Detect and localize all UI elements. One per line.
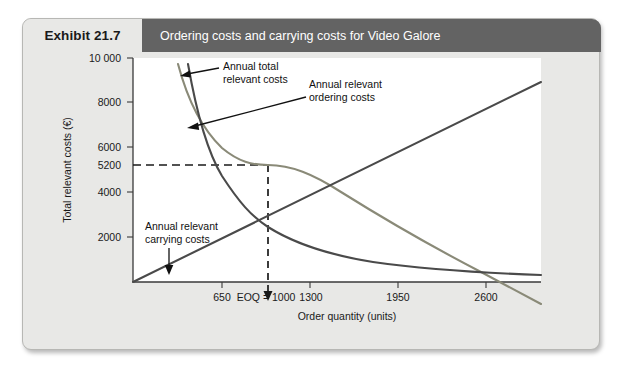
annotation-total-line-2: relevant costs: [223, 73, 288, 85]
y-tick-label-6000: 6000: [98, 141, 122, 153]
exhibit-number-label: Exhibit 21.7: [44, 28, 120, 43]
x-axis-ticks: [222, 282, 486, 288]
exhibit-card: Exhibit 21.7 Ordering costs and carrying…: [22, 18, 600, 350]
annotation-carrying-line-1: Annual relevant: [145, 220, 218, 232]
y-axis-title: Total relevant costs (€): [61, 117, 73, 223]
y-axis-ticks: [127, 58, 133, 237]
eoq-cost-chart: 10 000 8000 6000 5200 4000 2000 650 EOQ …: [23, 52, 601, 350]
x-tick-label-2600: 2600: [474, 291, 498, 303]
annotation-total-line-1: Annual total: [223, 60, 278, 72]
figure-body: 10 000 8000 6000 5200 4000 2000 650 EOQ …: [23, 52, 601, 350]
y-tick-label-4000: 4000: [98, 186, 122, 198]
x-axis-title: Order quantity (units): [298, 310, 397, 322]
y-tick-label-5200: 5200: [98, 159, 122, 171]
annotation-ordering-line-1: Annual relevant: [309, 78, 382, 90]
exhibit-header: Exhibit 21.7 Ordering costs and carrying…: [23, 19, 601, 52]
exhibit-number-tab: Exhibit 21.7: [23, 19, 142, 52]
annotation-ordering-line-2: ordering costs: [309, 91, 375, 103]
exhibit-title-label: Ordering costs and carrying costs for Vi…: [142, 29, 440, 43]
annotation-carrying-line-2: carrying costs: [145, 233, 210, 245]
exhibit-title-banner: Ordering costs and carrying costs for Vi…: [142, 19, 601, 52]
y-tick-label-10000: 10 000: [89, 52, 121, 64]
y-tick-label-2000: 2000: [98, 231, 122, 243]
y-tick-label-8000: 8000: [98, 96, 122, 108]
x-tick-label-1950: 1950: [386, 291, 410, 303]
x-tick-label-1300: 1300: [299, 291, 323, 303]
x-tick-label-650: 650: [213, 291, 231, 303]
